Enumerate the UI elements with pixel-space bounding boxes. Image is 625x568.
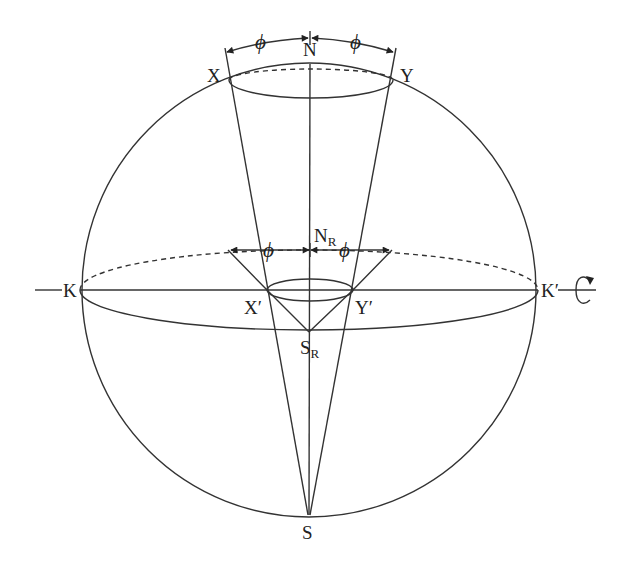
label-s-r: SR: [300, 337, 320, 361]
polar-axis-line: [309, 64, 310, 515]
label-phi-lower-right: ϕ: [339, 238, 350, 262]
label-n: N: [303, 39, 317, 60]
label-phi-upper-right: ϕ: [350, 30, 361, 54]
label-n-r: NR: [314, 225, 337, 249]
label-y: Y: [400, 65, 414, 86]
label-x-prime: X′: [244, 297, 262, 318]
cone-line-right: [310, 48, 396, 515]
label-x: X: [207, 65, 221, 86]
top-circle-front-arc: [229, 80, 393, 98]
label-s: S: [302, 522, 313, 543]
label-k: K: [63, 280, 77, 301]
label-phi-lower-left: ϕ: [263, 238, 274, 262]
phi-arrow-upper-left: [227, 38, 308, 52]
projection-triangle-right: [309, 250, 392, 332]
cone-line-left: [225, 48, 308, 515]
projection-triangle-left: [228, 250, 309, 332]
label-y-prime: Y′: [355, 297, 373, 318]
label-k-prime: K′: [541, 280, 559, 301]
label-phi-upper-left: ϕ: [255, 30, 266, 54]
sphere-diagram: N X Y ϕ ϕ NR ϕ ϕ K K′ X′ Y′ SR S: [0, 0, 625, 568]
